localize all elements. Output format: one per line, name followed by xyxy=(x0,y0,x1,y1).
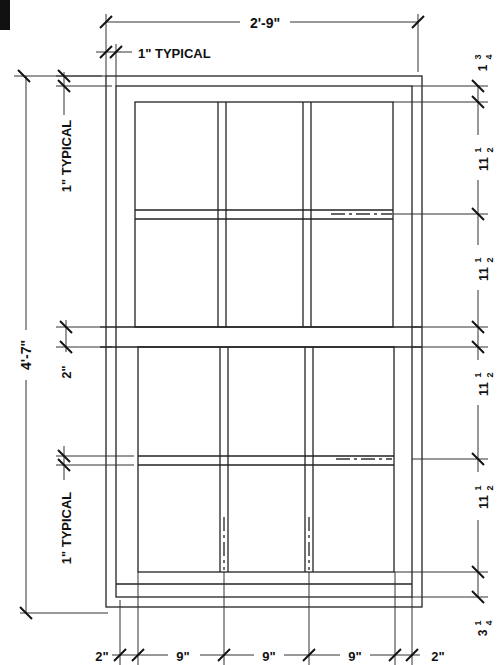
right-pane-label-4: 11 1 2 xyxy=(473,485,495,508)
right-bottom-label: 3 1 4 xyxy=(473,620,494,636)
dimension-frame-typical-left-upper: 1" TYPICAL xyxy=(56,70,112,192)
svg-text:2: 2 xyxy=(485,147,495,152)
svg-text:1: 1 xyxy=(473,620,483,625)
window-frame xyxy=(106,76,422,607)
lower-sash xyxy=(116,347,412,584)
svg-text:11: 11 xyxy=(476,495,491,509)
bottom-dim-right-2: 2" xyxy=(431,649,444,664)
svg-text:2: 2 xyxy=(485,257,495,262)
svg-text:1: 1 xyxy=(473,372,483,377)
svg-text:2: 2 xyxy=(485,372,495,377)
svg-text:3: 3 xyxy=(473,54,483,59)
frame-typical-left-lower-label: 1" TYPICAL xyxy=(59,492,74,565)
bottom-dim-9-c: 9" xyxy=(348,649,361,664)
svg-text:1: 1 xyxy=(473,257,483,262)
svg-text:4: 4 xyxy=(484,620,494,625)
dimension-frame-typical-left-lower: 1" TYPICAL xyxy=(56,446,134,564)
meeting-rail-label: 2" xyxy=(59,365,74,378)
svg-text:2: 2 xyxy=(485,485,495,490)
svg-text:11: 11 xyxy=(476,382,491,396)
right-pane-label-2: 11 1 2 xyxy=(473,257,495,280)
svg-text:1: 1 xyxy=(473,147,483,152)
overall-width-label: 2'-9" xyxy=(250,15,280,31)
right-pane-label-1: 11 1 2 xyxy=(473,147,495,170)
window-elevation-drawing: 2'-9" 1" TYPICAL 4'-7" 1" TYPICAL 2" xyxy=(0,0,503,665)
svg-text:11: 11 xyxy=(476,157,491,171)
overall-height-label: 4'-7" xyxy=(18,340,34,370)
bottom-dim-9-a: 9" xyxy=(176,649,189,664)
svg-text:3: 3 xyxy=(476,629,490,636)
bottom-dim-9-b: 9" xyxy=(262,649,275,664)
right-pane-label-3: 11 1 2 xyxy=(473,372,495,395)
dimension-frame-typical-top: 1" TYPICAL xyxy=(96,44,211,86)
dimension-overall-width: 2'-9" xyxy=(100,14,424,76)
svg-text:11: 11 xyxy=(476,267,491,281)
meeting-rail xyxy=(100,327,422,347)
svg-text:1: 1 xyxy=(473,485,483,490)
svg-text:4: 4 xyxy=(484,54,494,59)
dimension-chain-bottom: 2" 9" 9" 9" 2" xyxy=(95,572,444,665)
dimension-meeting-rail: 2" xyxy=(56,320,112,379)
bottom-dim-left-2: 2" xyxy=(95,649,108,664)
dimension-chain-right: 1 3 4 11 1 2 11 1 2 11 1 2 11 1 2 3 1 4 xyxy=(393,54,495,636)
frame-typical-top-label: 1" TYPICAL xyxy=(138,46,211,61)
right-top-label: 1 3 4 xyxy=(473,54,494,71)
svg-text:1: 1 xyxy=(476,64,490,71)
frame-typical-left-upper-label: 1" TYPICAL xyxy=(59,120,74,193)
upper-sash xyxy=(135,102,393,327)
